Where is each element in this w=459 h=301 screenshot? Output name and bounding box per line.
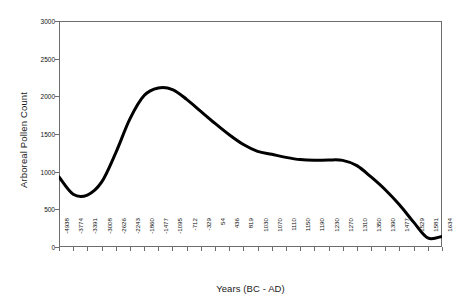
x-axis-tick-label: -2243 — [134, 218, 142, 252]
x-axis-tick-label: 1634 — [446, 218, 454, 252]
x-axis-tick-label: -3008 — [106, 218, 114, 252]
x-axis-tick-label: 1310 — [361, 218, 369, 252]
x-axis-tick-label: -1095 — [176, 218, 184, 252]
x-axis-tick-label: 819 — [247, 218, 255, 252]
x-axis-tick-label: 1070 — [276, 218, 284, 252]
series-line-arboreal-pollen-count — [59, 21, 442, 247]
x-axis-tick-mark — [201, 247, 202, 251]
x-axis-tick-label: -3391 — [91, 218, 99, 252]
x-axis-tick-mark — [385, 247, 386, 251]
y-axis-tick-label: 1000 — [26, 168, 55, 175]
y-axis-tick-mark — [55, 21, 59, 22]
x-axis-tick-mark — [286, 247, 287, 251]
pollen-count-chart: Arboreal Pollen Count 050010001500200025… — [0, 0, 459, 301]
x-axis-tick-mark — [144, 247, 145, 251]
y-axis-tick-label: 500 — [26, 206, 55, 213]
x-axis-tick-label: 1270 — [347, 218, 355, 252]
x-axis-tick-mark — [258, 247, 259, 251]
x-axis-tick-label: -2626 — [120, 218, 128, 252]
y-axis-tick-mark — [55, 172, 59, 173]
x-axis-tick-label: 1110 — [290, 218, 298, 252]
y-axis-tick-label: 2000 — [26, 93, 55, 100]
x-axis-tick-label: -3774 — [77, 218, 85, 252]
x-axis-tick-mark — [87, 247, 88, 251]
x-axis-tick-mark — [73, 247, 74, 251]
y-axis-tick-mark — [55, 59, 59, 60]
x-axis-tick-mark — [314, 247, 315, 251]
x-axis-tick-mark — [428, 247, 429, 251]
x-axis-tick-mark — [371, 247, 372, 251]
x-axis-tick-mark — [343, 247, 344, 251]
y-axis-tick-label: 1500 — [26, 131, 55, 138]
y-axis-tick-mark — [55, 209, 59, 210]
x-axis-tick-label: -712 — [191, 218, 199, 252]
x-axis-tick-mark — [243, 247, 244, 251]
y-axis-tick-label: 2500 — [26, 55, 55, 62]
x-axis-tick-mark — [215, 247, 216, 251]
x-axis-tick-mark — [116, 247, 117, 251]
x-axis-tick-label: 54 — [219, 218, 227, 252]
x-axis-tick-mark — [187, 247, 188, 251]
x-axis-tick-label: 1581 — [432, 218, 440, 252]
x-axis-tick-label: -1477 — [162, 218, 170, 252]
x-axis-tick-label: 1350 — [375, 218, 383, 252]
x-axis-tick-mark — [329, 247, 330, 251]
x-axis-tick-mark — [272, 247, 273, 251]
x-axis-tick-label: -1860 — [148, 218, 156, 252]
x-axis-tick-mark — [59, 247, 60, 251]
x-axis-tick-mark — [158, 247, 159, 251]
x-axis-tick-label: 1529 — [418, 218, 426, 252]
y-axis-tick-mark — [55, 134, 59, 135]
x-axis-tick-mark — [414, 247, 415, 251]
y-axis-tick-label: 3000 — [26, 18, 55, 25]
x-axis-tick-mark — [357, 247, 358, 251]
x-axis-tick-label: 436 — [233, 218, 241, 252]
y-axis-tick-label: 0 — [26, 244, 55, 251]
y-axis-tick-labels: 050010001500200025003000 — [26, 21, 55, 247]
x-axis-tick-label: 1150 — [304, 218, 312, 252]
x-axis-tick-label: 1230 — [333, 218, 341, 252]
x-axis-tick-mark — [399, 247, 400, 251]
x-axis-tick-mark — [172, 247, 173, 251]
x-axis-tick-label: -4938 — [63, 218, 71, 252]
x-axis-tick-mark — [130, 247, 131, 251]
x-axis-tick-label: 1030 — [262, 218, 270, 252]
x-axis-tick-mark — [442, 247, 443, 251]
x-axis-tick-mark — [229, 247, 230, 251]
x-axis-tick-mark — [300, 247, 301, 251]
x-axis-tick-mark — [102, 247, 103, 251]
x-axis-tick-label: 1390 — [389, 218, 397, 252]
y-axis-tick-mark — [55, 96, 59, 97]
x-axis-tick-label: 1477 — [403, 218, 411, 252]
x-axis-title: Years (BC - AD) — [59, 283, 442, 294]
x-axis-tick-label: 1190 — [318, 218, 326, 252]
x-axis-tick-label: -329 — [205, 218, 213, 252]
